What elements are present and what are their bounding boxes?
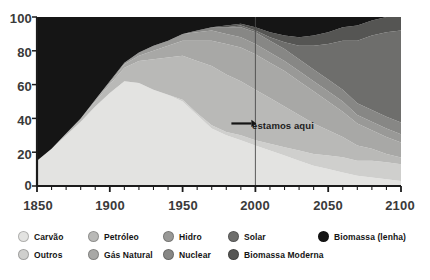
- legend-item[interactable]: Petróleo: [88, 228, 153, 245]
- legend-item-label: Hidro: [179, 232, 202, 242]
- legend-item[interactable]: Biomassa Moderna: [228, 246, 324, 263]
- stacked-area-chart: [0, 0, 430, 222]
- x-tick-label-2050: 2050: [302, 198, 354, 213]
- legend-swatch-icon: [88, 231, 99, 242]
- x-tick-label-2100: 2100: [374, 198, 426, 213]
- legend-item-label: Solar: [244, 232, 266, 242]
- legend-item[interactable]: Biomassa (lenha): [318, 228, 406, 245]
- legend-swatch-icon: [228, 249, 239, 260]
- legend-item[interactable]: Nuclear: [163, 246, 211, 263]
- chart-plot-area: 100 80 60 40 20 0 1850 1900 1950 2000 20…: [0, 0, 430, 222]
- legend-column: PetróleoGás Natural: [88, 228, 153, 264]
- legend-item[interactable]: Gás Natural: [88, 246, 153, 263]
- legend-item-label: Nuclear: [179, 250, 211, 260]
- legend-swatch-icon: [18, 231, 29, 242]
- legend-column: HidroNuclear: [163, 228, 211, 264]
- legend-item[interactable]: Carvão: [18, 228, 63, 245]
- x-tick-label-1850: 1850: [12, 198, 64, 213]
- legend-item-label: Biomassa Moderna: [244, 250, 324, 260]
- y-tick-label-20: 20: [0, 147, 32, 162]
- legend-item[interactable]: Outros: [18, 246, 63, 263]
- y-tick-label-100: 100: [0, 11, 32, 26]
- annotation-estamos-aqui: estamos aqui: [252, 120, 314, 131]
- legend-item-label: Carvão: [34, 232, 63, 242]
- chart-legend: CarvãoOutrosPetróleoGás NaturalHidroNucl…: [0, 228, 430, 274]
- legend-swatch-icon: [88, 249, 99, 260]
- x-tick-label-2000: 2000: [229, 198, 281, 213]
- legend-swatch-icon: [163, 249, 174, 260]
- y-tick-label-40: 40: [0, 113, 32, 128]
- legend-item[interactable]: Hidro: [163, 228, 211, 245]
- legend-item[interactable]: Solar: [228, 228, 324, 245]
- x-tick-label-1950: 1950: [157, 198, 209, 213]
- energy-transition-figure: 100 80 60 40 20 0 1850 1900 1950 2000 20…: [0, 0, 430, 280]
- legend-item-label: Gás Natural: [104, 250, 153, 260]
- x-tick-label-1900: 1900: [84, 198, 136, 213]
- legend-swatch-icon: [228, 231, 239, 242]
- legend-swatch-icon: [318, 231, 329, 242]
- legend-item-label: Petróleo: [104, 232, 139, 242]
- legend-column: Biomassa (lenha): [318, 228, 406, 246]
- y-tick-label-80: 80: [0, 45, 32, 60]
- legend-column: CarvãoOutros: [18, 228, 63, 264]
- legend-item-label: Biomassa (lenha): [334, 232, 406, 242]
- legend-item-label: Outros: [34, 250, 62, 260]
- legend-swatch-icon: [163, 231, 174, 242]
- legend-swatch-icon: [18, 249, 29, 260]
- y-tick-label-60: 60: [0, 79, 32, 94]
- legend-column: SolarBiomassa Moderna: [228, 228, 324, 264]
- y-tick-label-0: 0: [0, 178, 32, 193]
